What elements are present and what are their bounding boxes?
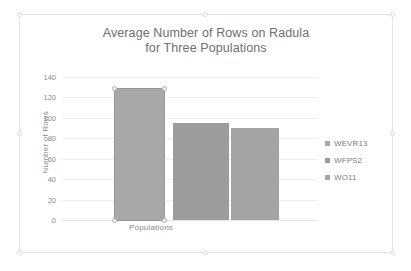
y-tick-label-80: 80 — [48, 134, 56, 143]
bar-handle-bottom-left[interactable] — [112, 218, 117, 223]
bar-handle-bottom-right[interactable] — [162, 218, 167, 223]
chart-title[interactable]: Average Number of Rows on Radula for Thr… — [20, 26, 392, 56]
bar-wevr13[interactable] — [115, 89, 164, 220]
resize-handle-top-left[interactable] — [17, 12, 22, 17]
legend-label-wo11: WO11 — [334, 173, 356, 182]
chart-legend[interactable]: WEVR13 WFPS2 WO11 — [325, 135, 391, 186]
legend-swatch-icon — [325, 175, 330, 180]
legend-label-wevr13: WEVR13 — [334, 139, 368, 148]
resize-handle-bottom-right[interactable] — [390, 250, 395, 255]
gridline-100 — [61, 118, 317, 119]
x-axis-line — [61, 220, 317, 221]
legend-item-wo11[interactable]: WO11 — [325, 169, 391, 186]
legend-label-wfps2: WFPS2 — [334, 156, 362, 165]
legend-item-wfps2[interactable]: WFPS2 — [325, 152, 391, 169]
chart-object[interactable]: Average Number of Rows on Radula for Thr… — [19, 14, 393, 253]
resize-handle-top-center[interactable] — [203, 12, 208, 17]
y-tick-label-120: 120 — [43, 93, 56, 102]
x-axis-title[interactable]: Populations — [61, 223, 241, 232]
bar-handle-top-right[interactable] — [162, 86, 167, 91]
y-tick-label-40: 40 — [48, 175, 56, 184]
legend-swatch-icon — [325, 141, 330, 146]
gridline-120 — [61, 97, 317, 98]
resize-handle-bottom-left[interactable] — [17, 250, 22, 255]
y-tick-label-20: 20 — [48, 195, 56, 204]
legend-swatch-icon — [325, 158, 330, 163]
resize-handle-middle-left[interactable] — [17, 131, 22, 136]
resize-handle-top-right[interactable] — [390, 12, 395, 17]
y-tick-label-140: 140 — [43, 73, 56, 82]
y-tick-label-0: 0 — [52, 216, 56, 225]
bar-wfps2[interactable] — [173, 123, 229, 220]
y-tick-label-100: 100 — [43, 113, 56, 122]
legend-item-wevr13[interactable]: WEVR13 — [325, 135, 391, 152]
bar-handle-top-left[interactable] — [112, 86, 117, 91]
bar-wo11[interactable] — [231, 128, 279, 220]
plot-area[interactable]: 140 120 100 80 60 40 20 0 — [61, 77, 317, 220]
chart-title-line-2: for Three Populations — [20, 41, 392, 56]
gridline-140 — [61, 77, 317, 78]
chart-title-line-1: Average Number of Rows on Radula — [103, 26, 310, 40]
y-tick-label-60: 60 — [48, 154, 56, 163]
resize-handle-bottom-center[interactable] — [203, 250, 208, 255]
